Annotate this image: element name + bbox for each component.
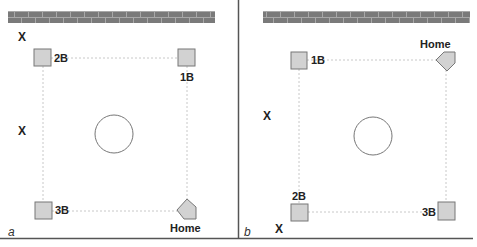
- panel-a: 2B 1B 3B Home X X a: [0, 11, 238, 239]
- brick-wall: [8, 11, 215, 23]
- fielder-marker: X: [275, 222, 283, 236]
- panel-b: 1B Home 2B 3B X X b: [238, 11, 473, 239]
- first-base: [291, 52, 307, 69]
- first-base: [178, 49, 195, 66]
- fielder-marker: X: [18, 30, 26, 44]
- second-base: [291, 204, 308, 221]
- second-base-label: 2B: [292, 190, 306, 202]
- third-base: [438, 202, 455, 220]
- brick-wall: [263, 11, 470, 23]
- second-base-label: 2B: [54, 52, 68, 64]
- pitchers-mound: [95, 115, 133, 153]
- first-base-label: 1B: [180, 71, 194, 83]
- home-plate-label: Home: [420, 38, 451, 50]
- pitchers-mound: [354, 117, 392, 155]
- base-paths: [299, 60, 446, 212]
- third-base-label: 3B: [422, 206, 436, 218]
- base-paths: [43, 58, 187, 211]
- third-base-label: 3B: [55, 204, 69, 216]
- home-plate-label: Home: [170, 222, 201, 234]
- panel-letter-a: a: [8, 225, 15, 239]
- fielder-marker: X: [263, 109, 271, 123]
- home-plate: [177, 199, 196, 219]
- first-base-label: 1B: [311, 54, 325, 66]
- second-base: [34, 49, 51, 66]
- panel-letter-b: b: [244, 225, 251, 239]
- diagram-canvas: 2B 1B 3B Home X X a 1B Home 2B: [0, 0, 477, 247]
- fielder-marker: X: [18, 124, 26, 138]
- third-base: [35, 202, 52, 219]
- home-plate: [436, 52, 455, 71]
